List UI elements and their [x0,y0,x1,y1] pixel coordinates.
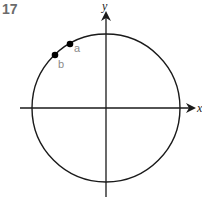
point-a-label: a [74,42,81,54]
point-a [67,41,74,48]
x-axis-label: x [196,101,202,115]
y-axis-label: y [101,0,108,13]
unit-circle-diagram: a b y x [0,0,202,201]
point-b-label: b [58,58,64,70]
